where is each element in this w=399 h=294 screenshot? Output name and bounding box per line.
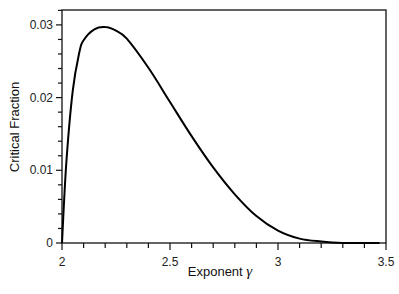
y-tick-label: 0.02 (30, 91, 54, 105)
chart: 00.010.020.03 22.533.5 Exponent γ Critic… (0, 0, 399, 294)
y-tick-label: 0.01 (30, 163, 54, 177)
x-tick-label: 3.5 (378, 255, 395, 269)
x-tick-label: 2.5 (162, 255, 179, 269)
plot-frame (62, 10, 386, 243)
x-tick-label: 2 (59, 255, 66, 269)
y-axis: 00.010.020.03 (30, 10, 62, 250)
x-tick-label: 3 (275, 255, 282, 269)
x-axis-title: Exponent γ (188, 263, 254, 279)
y-tick-label: 0 (46, 236, 53, 250)
y-tick-label: 0.03 (30, 18, 54, 32)
data-line (62, 27, 380, 243)
y-axis-title: Critical Fraction (7, 82, 22, 172)
